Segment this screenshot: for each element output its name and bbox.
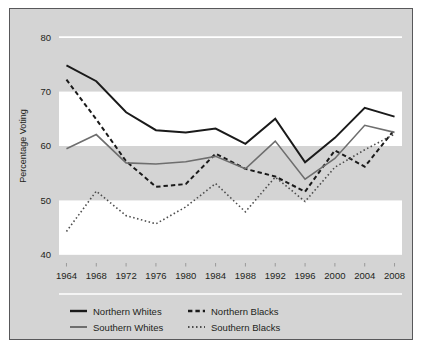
legend-item[interactable]: Southern Whites [70,322,163,333]
x-tick-label: 1972 [116,270,137,281]
y-tick-label: 80 [40,32,51,43]
background-bands [59,92,402,255]
legend-item[interactable]: Northern Whites [70,306,162,317]
x-axis-ticks: 1964196819721976198019841988199219962000… [56,263,405,281]
line-chart: 4050607080Percentage Voting1964196819721… [10,9,412,339]
legend: Northern WhitesNorthern BlacksSouthern W… [70,306,280,333]
x-tick-label: 2004 [354,270,375,281]
y-axis-title: Percentage Voting [18,109,28,183]
legend-label: Southern Whites [93,322,163,333]
x-tick-label: 1976 [145,270,166,281]
legend-label: Southern Blacks [211,322,280,333]
legend-item[interactable]: Northern Blacks [188,306,279,317]
x-tick-label: 1992 [265,270,286,281]
y-tick-label: 40 [40,249,51,260]
x-tick-label: 2008 [384,270,405,281]
x-tick-label: 1964 [56,270,77,281]
y-tick-label: 60 [40,140,51,151]
x-tick-label: 1984 [205,270,226,281]
y-axis-ticks: 4050607080 [40,32,51,261]
x-tick-label: 1996 [294,270,315,281]
chart-figure: 4050607080Percentage Voting1964196819721… [9,8,413,340]
legend-label: Northern Blacks [211,306,279,317]
x-tick-label: 1988 [235,270,256,281]
x-tick-label: 2000 [324,270,345,281]
legend-item[interactable]: Southern Blacks [188,322,280,333]
y-tick-label: 70 [40,86,51,97]
x-tick-label: 1980 [175,270,196,281]
y-tick-label: 50 [40,195,51,206]
legend-label: Northern Whites [93,306,162,317]
x-tick-label: 1968 [86,270,107,281]
